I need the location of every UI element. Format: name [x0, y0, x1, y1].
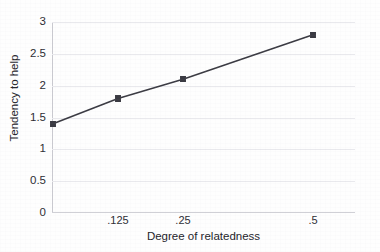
y-axis-tick-label: 3	[40, 16, 46, 28]
data-point-marker	[115, 95, 121, 101]
series-markers	[50, 32, 316, 127]
y-axis-tick-labels: 00.511.522.53	[0, 0, 46, 252]
y-axis-tick-label: 0	[40, 207, 46, 219]
data-point-marker	[180, 76, 186, 82]
y-axis-tick-label: 1	[40, 143, 46, 155]
data-series-line	[52, 22, 355, 213]
chart-figure: 00.511.522.53 .125.25.5 Tendency to help…	[0, 0, 380, 252]
data-point-marker	[310, 32, 316, 38]
y-axis-tick-label: 1.5	[30, 112, 46, 124]
x-axis-title: Degree of relatedness	[52, 230, 355, 242]
x-axis-tick-label: .125	[107, 215, 128, 226]
y-axis-title: Tendency to help	[8, 38, 20, 158]
data-point-marker	[50, 121, 56, 127]
y-axis-tick-label: 2	[40, 80, 46, 92]
y-axis-tick-label: 0.5	[30, 175, 46, 187]
y-axis-tick-label: 2.5	[30, 48, 46, 60]
x-axis-tick-label: .5	[308, 215, 317, 226]
x-axis-tick-label: .25	[175, 215, 190, 226]
plot-area	[52, 22, 355, 213]
